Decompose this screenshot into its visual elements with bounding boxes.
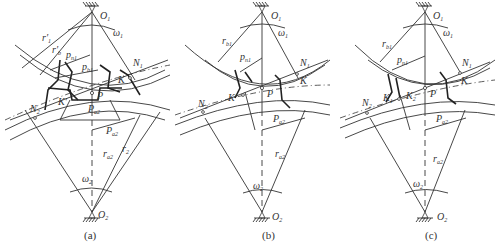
svg-text:P: P (266, 88, 273, 99)
svg-text:ω1: ω1 (443, 27, 453, 39)
ground-support-o1-icon (253, 2, 269, 12)
svg-text:O1: O1 (271, 10, 281, 22)
svg-text:P: P (429, 88, 436, 99)
svg-text:ra2: ra2 (433, 153, 443, 165)
svg-text:pn1: pn1 (65, 49, 77, 61)
svg-text:r2: r2 (122, 143, 129, 155)
svg-text:K2: K2 (405, 90, 416, 102)
panel-a: O1 ω1 r′1 r′b pn1 pb1 N1 K K′ P N2 Pa2 P… (5, 2, 170, 242)
svg-text:ω1: ω1 (278, 27, 288, 39)
svg-text:pb1: pb1 (81, 61, 93, 73)
ground-support-o1-icon (416, 2, 432, 12)
svg-text:ra2: ra2 (275, 148, 285, 160)
panel-b: O1 ω1 rb1 pn1 N1 K K′ P N2 Pa2 ra2 ω2 O2… (175, 2, 330, 242)
svg-text:r′b: r′b (52, 44, 61, 56)
svg-text:ω1: ω1 (113, 27, 123, 39)
svg-text:O2: O2 (437, 211, 447, 223)
svg-text:rb1: rb1 (382, 38, 392, 50)
caption-c: (c) (425, 229, 438, 242)
svg-text:K′: K′ (227, 92, 238, 103)
svg-text:N2: N2 (29, 103, 40, 115)
ground-support-o2-icon (253, 212, 270, 222)
svg-text:K: K (299, 75, 308, 86)
svg-text:Pa2: Pa2 (87, 103, 100, 115)
svg-text:Pa2: Pa2 (272, 113, 285, 125)
panel-c: O1 ω1 rb1 pn1 N1 K K1 K2 P N2 Pa2 ra2 ω2… (340, 2, 495, 242)
caption-b: (b) (262, 229, 275, 242)
svg-text:O1: O1 (433, 10, 443, 22)
svg-text:N2: N2 (197, 98, 208, 110)
svg-text:N1: N1 (132, 57, 143, 69)
svg-text:P: P (96, 90, 103, 101)
svg-text:K: K (460, 75, 469, 86)
svg-text:ω2: ω2 (413, 178, 423, 190)
svg-text:ω2: ω2 (82, 173, 92, 185)
svg-text:Pa2: Pa2 (105, 125, 118, 137)
svg-text:rb1: rb1 (222, 35, 232, 47)
svg-text:ra2: ra2 (103, 148, 113, 160)
ground-support-o1-icon (83, 2, 99, 12)
svg-text:pn1: pn1 (239, 51, 251, 63)
ground-support-o2-icon (416, 212, 433, 222)
svg-text:N1: N1 (299, 57, 310, 69)
svg-text:O2: O2 (98, 209, 108, 221)
svg-text:K: K (117, 74, 126, 85)
svg-text:r′1: r′1 (42, 32, 51, 44)
caption-a: (a) (84, 229, 97, 242)
svg-text:Pa2: Pa2 (435, 113, 448, 125)
svg-text:N2: N2 (361, 97, 372, 109)
svg-text:O2: O2 (272, 211, 282, 223)
svg-text:O1: O1 (100, 10, 110, 22)
svg-text:K′: K′ (57, 96, 68, 107)
gear-meshing-diagram: O1 ω1 r′1 r′b pn1 pb1 N1 K K′ P N2 Pa2 P… (0, 0, 499, 246)
svg-text:pn1: pn1 (396, 54, 408, 66)
svg-text:N1: N1 (461, 57, 472, 69)
